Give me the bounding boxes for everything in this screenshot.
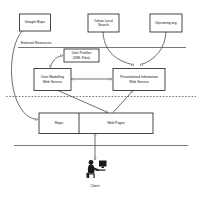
diagram-canvas	[0, 0, 202, 197]
external-resources-label: External Resources	[21, 41, 52, 45]
connector-yahoo-to-personalised	[103, 32, 134, 65]
connector-user-modelling-to-web-pages	[58, 91, 108, 113]
connector-user-modelling-to-user-profiles	[50, 56, 63, 68]
node-box-yahoo-local-search[interactable]	[88, 14, 119, 32]
node-box-google-maps[interactable]	[20, 14, 51, 31]
architecture-diagram: Google Maps Yahoo Local Search Upcoming.…	[0, 0, 202, 197]
node-box-upcoming-org[interactable]	[150, 14, 182, 32]
node-box-user-profiles[interactable]	[64, 49, 99, 62]
connector-upcoming-to-personalised	[140, 32, 166, 65]
node-box-personalised-information-web-service[interactable]	[113, 69, 165, 91]
client-figure-icon	[87, 160, 107, 178]
connector-personalised-to-web-pages	[113, 91, 133, 113]
node-box-user-modelling-web-service[interactable]	[34, 69, 71, 91]
node-box-output-container	[39, 113, 153, 134]
